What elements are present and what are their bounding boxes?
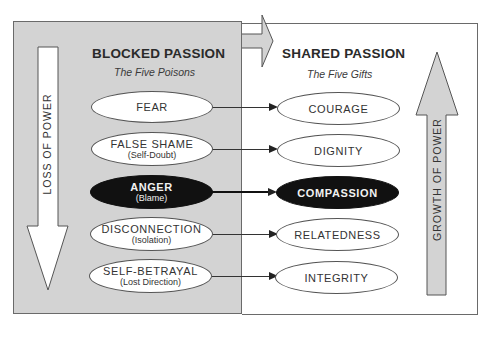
gift-courage: COURAGE (277, 92, 400, 125)
gift-label: INTEGRITY (304, 272, 368, 284)
gift-integrity: INTEGRITY (275, 261, 398, 294)
poison-self-betrayal: SELF-BETRAYAL (Lost Direction) (89, 259, 212, 293)
connector-line (212, 234, 270, 235)
shared-passion-heading: SHARED PASSION (282, 46, 405, 61)
poison-label: FALSE SHAME (110, 138, 193, 150)
five-poisons-subheading: The Five Poisons (114, 66, 195, 78)
gift-dignity: DIGNITY (277, 134, 400, 167)
diagram-arrows (0, 0, 495, 338)
transition-arrow-icon (242, 0, 274, 26)
poison-sub-label: (Blame) (136, 193, 168, 204)
gift-label: DIGNITY (314, 145, 363, 157)
transition-right-arrow-icon (242, 12, 276, 28)
growth-of-power-label: GROWTH OF POWER (431, 127, 443, 241)
five-gifts-subheading: The Five Gifts (307, 68, 372, 80)
loss-of-power-label: LOSS OF POWER (41, 89, 53, 199)
poison-label: FEAR (136, 101, 168, 113)
connector-line (212, 276, 270, 277)
gift-label: COURAGE (309, 103, 369, 115)
gift-label: COMPASSION (297, 187, 377, 199)
poison-label: ANGER (130, 181, 173, 193)
poison-sub-label: (Lost Direction) (120, 277, 181, 288)
poison-disconnection: DISCONNECTION (Isolation) (90, 217, 213, 251)
shared-arrow-icon (242, 15, 273, 67)
gift-relatedness: RELATEDNESS (276, 218, 399, 251)
gift-label: RELATEDNESS (294, 229, 380, 241)
connector-line (212, 107, 270, 108)
poison-sub-label: (Self-Doubt) (128, 150, 177, 161)
passion-diagram: LOSS OF POWER GROWTH OF POWER BLOCKED PA… (0, 0, 495, 338)
poison-anger: ANGER (Blame) (90, 175, 213, 209)
gift-compassion: COMPASSION (276, 176, 399, 209)
connector-line (212, 149, 270, 150)
connector-line (212, 191, 270, 193)
poison-label: SELF-BETRAYAL (103, 265, 198, 277)
poison-false-shame: FALSE SHAME (Self-Doubt) (91, 132, 213, 166)
blocked-passion-heading: BLOCKED PASSION (92, 46, 225, 61)
poison-fear: FEAR (91, 91, 213, 123)
poison-sub-label: (Isolation) (132, 235, 172, 246)
poison-label: DISCONNECTION (101, 223, 201, 235)
